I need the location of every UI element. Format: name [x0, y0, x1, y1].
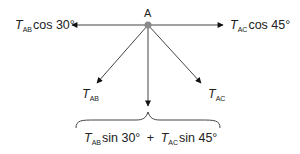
label-subscript: AC — [238, 26, 248, 33]
label-subscript: AB — [92, 139, 101, 146]
arrow-tab — [97, 25, 148, 83]
label-subscript: AC — [216, 95, 226, 102]
label-tac-cos45: TACcos 45° — [230, 19, 290, 33]
label-symbol: T — [208, 87, 216, 101]
label-subscript: AB — [23, 26, 32, 33]
label-tab: TAB — [82, 88, 100, 102]
label-function: cos 30° — [33, 18, 75, 32]
label-tab-cos30: TABcos 30° — [15, 19, 75, 33]
label-symbol: T — [230, 18, 238, 32]
point-a-dot — [145, 22, 152, 29]
label-symbol: T — [82, 87, 90, 101]
label-vertical-sum: TABsin 30° + TACsin 45° — [84, 132, 217, 146]
plus-sign: + — [147, 131, 154, 145]
point-a-label: A — [144, 7, 151, 19]
label-symbol: T — [84, 131, 92, 145]
label-function: sin 45° — [179, 131, 217, 145]
label-function: sin 30° — [102, 131, 140, 145]
label-tac: TAC — [208, 88, 226, 102]
label-function: cos 45° — [248, 18, 290, 32]
label-subscript: AC — [168, 139, 178, 146]
arrow-tac — [148, 25, 201, 83]
label-subscript: AB — [90, 95, 99, 102]
curly-brace — [76, 112, 220, 128]
label-symbol: T — [15, 18, 23, 32]
